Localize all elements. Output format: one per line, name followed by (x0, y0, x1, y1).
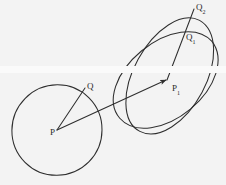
label-Q1-subscript: 1 (193, 39, 196, 45)
label-P-text: P (50, 127, 55, 137)
label-Q2-text: Q (196, 2, 203, 12)
label-P1: P1 (172, 84, 180, 95)
label-Q1-text: Q (186, 32, 193, 42)
label-Q2: Q2 (196, 3, 206, 14)
geometry-figure (0, 0, 226, 185)
label-Q1: Q1 (186, 33, 196, 44)
label-Q-text: Q (87, 81, 94, 91)
ellipse-inner (96, 12, 226, 147)
label-Q: Q (87, 82, 94, 91)
label-P1-subscript: 1 (177, 90, 180, 96)
label-Q2-subscript: 2 (203, 9, 206, 15)
ellipse-outer (109, 3, 226, 148)
label-P: P (50, 128, 55, 137)
diagram-canvas: P Q P1 Q1 Q2 (0, 0, 226, 185)
